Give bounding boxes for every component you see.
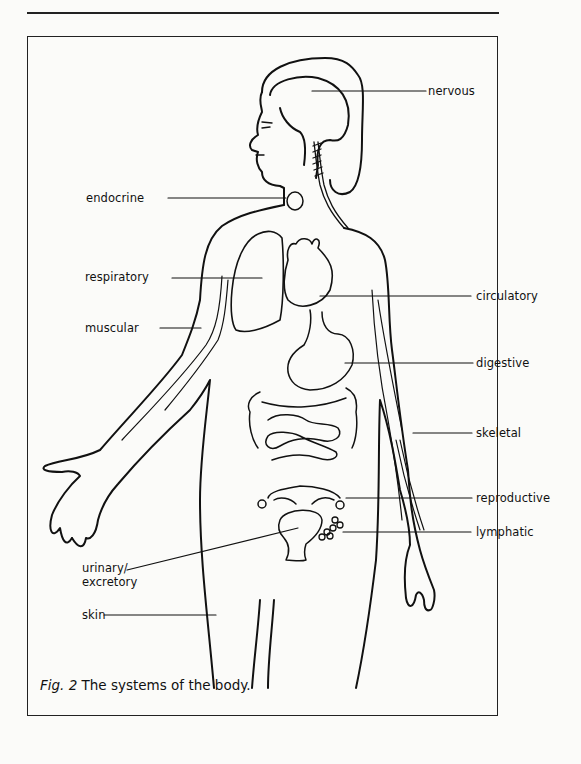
label-skin: skin xyxy=(82,609,106,622)
lung-icon xyxy=(231,231,283,331)
label-endocrine: endocrine xyxy=(86,192,144,205)
bladder-icon xyxy=(279,510,322,561)
label-lymphatic: lymphatic xyxy=(476,526,534,539)
caption-figure-number: Fig. 2 xyxy=(40,677,77,693)
reproductive-organs-icon xyxy=(258,486,344,509)
label-respiratory: respiratory xyxy=(85,271,149,284)
digestive-organs-icon xyxy=(248,310,356,460)
head-outline xyxy=(250,58,363,205)
caption-text: The systems of the body. xyxy=(77,677,250,693)
label-digestive: digestive xyxy=(476,357,529,370)
label-urinary: urinary/ xyxy=(82,562,128,575)
label-circulatory: circulatory xyxy=(476,290,538,303)
label-nervous: nervous xyxy=(428,85,475,98)
label-reproductive: reproductive xyxy=(476,492,550,505)
label-muscular: muscular xyxy=(85,322,139,335)
label-skeletal: skeletal xyxy=(476,427,521,440)
label-excretory: excretory xyxy=(82,576,137,589)
body-systems-illustration xyxy=(0,0,581,764)
thyroid-icon xyxy=(287,192,303,210)
figure-caption: Fig. 2 The systems of the body. xyxy=(40,677,251,693)
